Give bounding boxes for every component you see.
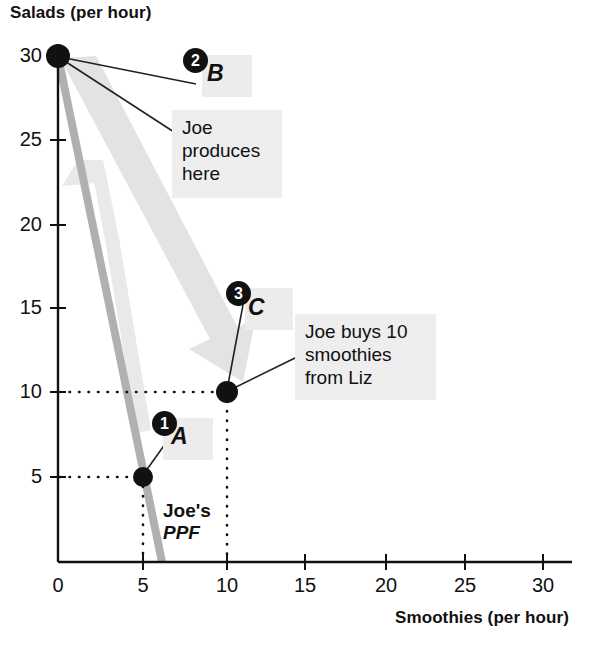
callout-buys-line3: from Liz xyxy=(305,366,427,389)
callout-produces-line1: Joe xyxy=(182,116,273,139)
x-axis-title: Smoothies (per hour) xyxy=(395,608,569,628)
ppf-owner: Joe's xyxy=(163,500,211,522)
leader-c-callout xyxy=(230,357,297,390)
callout-joe-produces-here: Joe produces here xyxy=(172,110,282,198)
leader-c-badge xyxy=(227,305,243,390)
y-tick-label-30: 30 xyxy=(0,44,42,67)
y-tick-label-15: 15 xyxy=(0,296,42,319)
ppf-abbreviation: PPF xyxy=(163,522,211,544)
x-tick-label-0: 0 xyxy=(38,574,78,597)
point-b-marker xyxy=(46,44,70,68)
x-tick-label-25: 25 xyxy=(445,574,485,597)
callout-produces-line3: here xyxy=(182,162,273,185)
callout-buys-line1: Joe buys 10 xyxy=(305,320,427,343)
step-badge-1: 1 xyxy=(152,411,177,436)
x-tick-label-10: 10 xyxy=(207,574,247,597)
point-c-marker xyxy=(216,381,238,403)
y-axis-title: Salads (per hour) xyxy=(10,3,152,23)
x-tick-label-20: 20 xyxy=(366,574,406,597)
y-tick-label-25: 25 xyxy=(0,128,42,151)
callout-produces-line2: produces xyxy=(182,139,273,162)
point-b-label: B xyxy=(207,60,224,87)
ppf-curve-label: Joe's PPF xyxy=(163,500,211,544)
step-badge-3: 3 xyxy=(226,281,251,306)
x-tick-label-30: 30 xyxy=(523,574,563,597)
step-badge-2: 2 xyxy=(183,48,208,73)
ppf-chart: Salads (per hour) Smoothies (per hour) 3… xyxy=(0,0,595,650)
x-tick-label-5: 5 xyxy=(123,574,163,597)
y-tick-label-5: 5 xyxy=(0,465,42,488)
x-tick-label-15: 15 xyxy=(285,574,325,597)
y-tick-label-10: 10 xyxy=(0,380,42,403)
callout-buys-line2: smoothies xyxy=(305,343,427,366)
point-a-marker xyxy=(133,467,153,487)
callout-joe-buys-smoothies: Joe buys 10 smoothies from Liz xyxy=(295,314,436,400)
y-tick-label-20: 20 xyxy=(0,213,42,236)
point-c-label: C xyxy=(248,294,265,321)
